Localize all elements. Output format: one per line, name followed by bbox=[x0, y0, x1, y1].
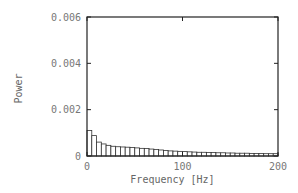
bar bbox=[120, 147, 125, 156]
bar bbox=[92, 136, 97, 156]
bar bbox=[135, 148, 140, 156]
bar bbox=[87, 131, 92, 156]
bar bbox=[163, 150, 168, 156]
bar bbox=[144, 149, 149, 156]
bar bbox=[106, 145, 111, 156]
bar bbox=[187, 152, 192, 156]
bar bbox=[140, 148, 145, 156]
x-tick-label: 100 bbox=[173, 161, 191, 172]
y-tick-label: 0.002 bbox=[51, 104, 81, 115]
bar bbox=[159, 150, 164, 156]
bar bbox=[130, 147, 135, 156]
bar bbox=[173, 151, 178, 156]
bar bbox=[168, 151, 173, 156]
y-axis-ticks: 00.0020.0040.006 bbox=[51, 12, 278, 162]
bar bbox=[97, 142, 102, 156]
bar bbox=[125, 147, 130, 156]
x-tick-label: 200 bbox=[269, 161, 287, 172]
y-tick-label: 0.006 bbox=[51, 12, 81, 23]
y-tick-label: 0.004 bbox=[51, 58, 81, 69]
power-spectrum-chart: 00.0020.0040.006 0100200 Frequency [Hz] … bbox=[0, 0, 298, 193]
bar bbox=[111, 146, 116, 156]
y-tick-label: 0 bbox=[75, 151, 81, 162]
bar bbox=[178, 151, 183, 156]
bar bbox=[154, 150, 159, 156]
bar bbox=[183, 152, 188, 156]
x-axis-label: Frequency [Hz] bbox=[130, 174, 214, 185]
y-axis-label: Power bbox=[13, 73, 24, 103]
bar bbox=[101, 144, 106, 156]
bar bbox=[116, 147, 121, 156]
x-tick-label: 0 bbox=[84, 161, 90, 172]
plot-frame bbox=[87, 17, 278, 156]
bar bbox=[149, 149, 154, 156]
